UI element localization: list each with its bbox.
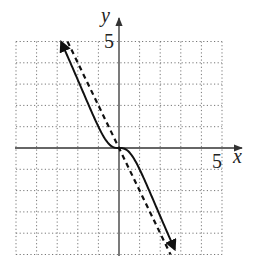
solid-curve xyxy=(61,42,174,249)
graph: y 5 5 x xyxy=(0,0,254,263)
x-axis-label: x xyxy=(232,145,242,167)
x-tick-5: 5 xyxy=(212,150,222,172)
y-tick-5: 5 xyxy=(104,30,114,52)
y-axis-label: y xyxy=(99,4,110,27)
